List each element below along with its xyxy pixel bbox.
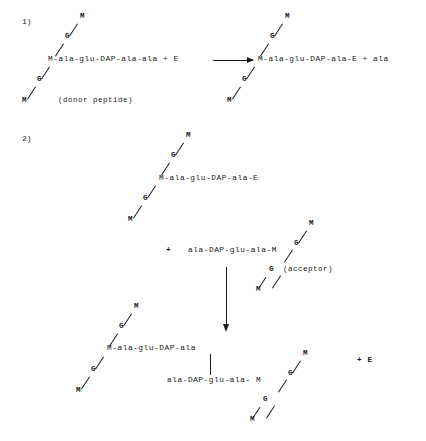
glycan-bond [292,360,301,373]
glycan-residue-m: M [303,350,308,358]
glycan-residue-m: M [250,416,255,424]
glycan-bond [95,356,104,369]
donor-acyl-enzyme-chain: M-ala-glu-DAP-ala-E [159,175,258,183]
glycan-bond [41,66,50,79]
acceptor-peptide-chain: ala-DAP-glu-ala-M [188,247,277,255]
glycan-bond [266,405,275,418]
glycan-residue-m: M [256,286,261,294]
glycan-residue-g: G [263,396,268,404]
step-number-2: 2) [22,135,32,143]
glycan-bond [81,376,90,389]
glycan-bond [278,379,287,392]
glycan-residue-m: M [80,13,85,21]
plus-operator: + [166,247,171,255]
product-peptide-chain: M-ala-glu-DAP-ala-E + ala [258,56,389,64]
glycan-residue-m: M [22,97,27,105]
glycan-residue-g: G [269,266,274,274]
glycan-residue-g: G [288,370,293,378]
glycan-residue-g: G [37,76,42,84]
donor-peptide-chain: M-ala-glu-DAP-ala-ala + E [48,56,179,64]
glycan-residue-m: M [76,387,81,395]
glycan-residue-m: M [227,97,232,105]
glycan-residue-g: G [171,152,176,160]
product-left-peptide-chain: M-ala-glu-DAP-ala [107,345,196,353]
reaction-diagram-canvas: 1) M G M-ala-glu-DAP-ala-ala + E G M (do… [0,0,426,441]
glycan-residue-m: M [285,13,290,21]
glycan-residue-g: G [91,366,96,374]
glycan-bond [232,86,241,99]
glycan-residue-m: M [186,132,191,140]
glycan-bond [147,185,156,198]
product-right-peptide-chain: ala-DAP-glu-ala- M [167,377,261,385]
glycan-residue-g: G [294,240,299,248]
glycan-bond [133,205,142,218]
glycan-bond [274,23,283,36]
glycan-bond [69,23,78,36]
step-number-1: 1) [22,18,32,26]
glycan-residue-g: G [270,33,275,41]
glycan-bond [123,313,132,326]
glycan-residue-g: G [242,76,247,84]
glycan-bond [246,66,255,79]
glycan-bond [284,249,293,262]
glycan-residue-g: G [119,323,124,331]
reaction-arrow-down [226,267,227,325]
glycan-bond [175,142,184,155]
glycan-residue-m: M [128,216,133,224]
donor-peptide-note: (donor peptide) [58,97,133,105]
glycan-residue-g: G [143,195,148,203]
glycan-bond [27,86,36,99]
reaction-arrow-right [213,60,253,61]
glycan-residue-m: M [134,303,139,311]
glycan-residue-g: G [65,33,70,41]
acceptor-peptide-note: (acceptor) [283,266,333,274]
glycan-residue-m: M [309,220,314,228]
glycan-bond [298,230,307,243]
glycan-bond [272,275,281,288]
crosslink-bond [210,354,211,375]
released-enzyme-label: + E [357,357,373,365]
